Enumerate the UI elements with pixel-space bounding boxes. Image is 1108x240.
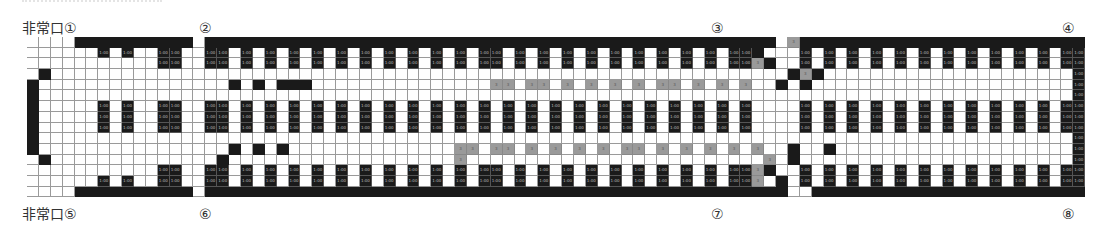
- seat-cell[interactable]: 1:00: [800, 101, 812, 112]
- seat-cell[interactable]: 1:00: [740, 176, 752, 187]
- seat-cell[interactable]: 1:00: [170, 58, 182, 69]
- seat-cell[interactable]: 1:00: [515, 58, 527, 69]
- seat-cell[interactable]: 1:00: [241, 123, 253, 134]
- seat-cell[interactable]: 1:00: [431, 58, 443, 69]
- seat-cell[interactable]: 1:00: [633, 58, 645, 69]
- seat-cell[interactable]: 1:00: [408, 101, 420, 112]
- seat-cell[interactable]: 1:00: [158, 101, 170, 112]
- seat-cell[interactable]: 1:00: [431, 101, 443, 112]
- seat-cell[interactable]: 1:00: [503, 112, 515, 123]
- seat-cell[interactable]: 1:00: [598, 123, 610, 134]
- seat-cell[interactable]: 1:00: [705, 58, 717, 69]
- seat-cell[interactable]: 1:00: [847, 123, 859, 134]
- seat-cell[interactable]: 1:00: [562, 165, 574, 176]
- seat-cell[interactable]: 1:00: [312, 112, 324, 123]
- gray-seat-cell[interactable]: 3: [752, 176, 764, 187]
- seat-cell[interactable]: 1:00: [515, 165, 527, 176]
- seat-cell[interactable]: 1:00: [717, 101, 729, 112]
- seat-cell[interactable]: 1:00: [455, 165, 467, 176]
- seat-cell[interactable]: 1:00: [360, 165, 372, 176]
- seat-cell[interactable]: 1:00: [312, 176, 324, 187]
- seat-cell[interactable]: 1:00: [895, 48, 907, 59]
- gray-seat-cell[interactable]: 3: [764, 155, 776, 166]
- seat-cell[interactable]: 1:00: [98, 176, 110, 187]
- seat-cell[interactable]: 1:00: [1073, 144, 1085, 155]
- seat-cell[interactable]: 1:00: [1014, 112, 1026, 123]
- seat-cell[interactable]: 1:00: [824, 176, 836, 187]
- gray-seat-cell[interactable]: 3: [740, 80, 752, 91]
- seat-cell[interactable]: 1:00: [384, 112, 396, 123]
- seat-cell[interactable]: 1:00: [574, 101, 586, 112]
- seat-cell[interactable]: 1:00: [681, 48, 693, 59]
- seat-cell[interactable]: 1:00: [693, 123, 705, 134]
- seat-cell[interactable]: 1:00: [824, 48, 836, 59]
- seat-cell[interactable]: 1:00: [847, 176, 859, 187]
- seat-cell[interactable]: 1:00: [479, 48, 491, 59]
- seat-cell[interactable]: 1:00: [336, 101, 348, 112]
- seat-cell[interactable]: 1:00: [205, 58, 217, 69]
- seat-cell[interactable]: 1:00: [1014, 176, 1026, 187]
- gray-seat-cell[interactable]: 3: [526, 144, 538, 155]
- seat-cell[interactable]: 1:00: [800, 123, 812, 134]
- seat-cell[interactable]: 1:00: [479, 165, 491, 176]
- seat-cell[interactable]: 1:00: [943, 101, 955, 112]
- seat-cell[interactable]: 1:00: [479, 101, 491, 112]
- seat-cell[interactable]: 1:00: [669, 112, 681, 123]
- seat-cell[interactable]: 1:00: [526, 123, 538, 134]
- seat-cell[interactable]: 1:00: [622, 112, 634, 123]
- seat-cell[interactable]: 1:00: [170, 48, 182, 59]
- gray-seat-cell[interactable]: 3: [788, 37, 800, 48]
- seat-cell[interactable]: 1:00: [586, 176, 598, 187]
- seat-cell[interactable]: 1:00: [1073, 123, 1085, 134]
- seat-cell[interactable]: 1:00: [538, 176, 550, 187]
- gray-seat-cell[interactable]: 3: [598, 144, 610, 155]
- seat-cell[interactable]: 1:00: [289, 165, 301, 176]
- seat-cell[interactable]: 1:00: [455, 58, 467, 69]
- seat-cell[interactable]: 1:00: [265, 112, 277, 123]
- seat-cell[interactable]: 1:00: [241, 58, 253, 69]
- seat-cell[interactable]: 1:00: [586, 58, 598, 69]
- gray-seat-cell[interactable]: 3: [800, 69, 812, 80]
- seat-cell[interactable]: 1:00: [1014, 123, 1026, 134]
- gray-seat-cell[interactable]: 3: [752, 165, 764, 176]
- seat-cell[interactable]: 1:00: [740, 112, 752, 123]
- seat-cell[interactable]: 1:00: [170, 101, 182, 112]
- seat-cell[interactable]: 1:00: [740, 123, 752, 134]
- seat-cell[interactable]: 1:00: [847, 58, 859, 69]
- seat-cell[interactable]: 1:00: [205, 101, 217, 112]
- seat-cell[interactable]: 1:00: [824, 123, 836, 134]
- seat-cell[interactable]: 1:00: [455, 176, 467, 187]
- seat-cell[interactable]: 1:00: [895, 176, 907, 187]
- seat-cell[interactable]: 1:00: [98, 123, 110, 134]
- seat-cell[interactable]: 1:00: [526, 101, 538, 112]
- seat-cell[interactable]: 1:00: [847, 48, 859, 59]
- seat-cell[interactable]: 1:00: [1038, 176, 1050, 187]
- gray-seat-cell[interactable]: 3: [467, 144, 479, 155]
- seat-cell[interactable]: 1:00: [336, 176, 348, 187]
- seat-cell[interactable]: 1:00: [217, 165, 229, 176]
- seat-cell[interactable]: 1:00: [740, 165, 752, 176]
- seat-cell[interactable]: 1:00: [336, 58, 348, 69]
- seat-cell[interactable]: 1:00: [633, 176, 645, 187]
- seat-cell[interactable]: 1:00: [1038, 123, 1050, 134]
- seat-cell[interactable]: 1:00: [645, 101, 657, 112]
- seat-cell[interactable]: 1:00: [98, 112, 110, 123]
- seat-cell[interactable]: 1:00: [515, 48, 527, 59]
- seat-cell[interactable]: 1:00: [98, 48, 110, 59]
- seat-cell[interactable]: 1:00: [562, 48, 574, 59]
- seat-cell[interactable]: 1:00: [289, 176, 301, 187]
- seat-cell[interactable]: 1:00: [205, 165, 217, 176]
- seat-cell[interactable]: 1:00: [158, 123, 170, 134]
- seat-cell[interactable]: 1:00: [205, 48, 217, 59]
- seat-cell[interactable]: 1:00: [729, 176, 741, 187]
- seat-cell[interactable]: 1:00: [657, 48, 669, 59]
- seat-cell[interactable]: 1:00: [336, 48, 348, 59]
- seat-cell[interactable]: 1:00: [241, 101, 253, 112]
- seat-cell[interactable]: 1:00: [205, 176, 217, 187]
- seat-cell[interactable]: 1:00: [455, 123, 467, 134]
- seat-cell[interactable]: 1:00: [1014, 58, 1026, 69]
- seat-cell[interactable]: 1:00: [408, 112, 420, 123]
- seat-cell[interactable]: 1:00: [538, 48, 550, 59]
- gray-seat-cell[interactable]: 3: [538, 80, 550, 91]
- seat-cell[interactable]: 1:00: [717, 123, 729, 134]
